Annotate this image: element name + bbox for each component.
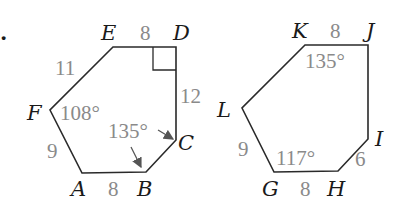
right-angle-mark [153,47,176,70]
side-label-ab: 8 [108,177,119,201]
side-label-kj: 8 [330,19,341,43]
diagram-canvas: . E D C B A F 8 12 8 9 11 108° 135° K J … [0,0,398,214]
angle-arrow-b [131,147,141,167]
vertex-label-f: F [26,101,43,125]
angle-label-g: 117° [276,146,315,170]
side-label-hi: 6 [355,147,366,171]
side-label-gh: 8 [300,177,311,201]
side-label-ed: 8 [140,21,151,45]
geometry-figure: . E D C B A F 8 12 8 9 11 108° 135° K J … [0,0,398,214]
side-label-fa: 9 [47,139,58,163]
vertex-label-i: I [374,127,384,151]
angle-label-bc: 135° [108,119,148,143]
polygon-abcdef: E D C B A F 8 12 8 9 11 108° 135° [26,21,201,201]
side-label-lg: 9 [238,137,249,161]
angle-label-k: 135° [305,49,345,73]
side-label-dc: 12 [180,84,201,108]
vertex-label-l: L [216,98,231,122]
vertex-label-c: C [178,131,194,155]
vertex-label-a: A [69,177,86,201]
vertex-label-g: G [262,177,279,201]
vertex-label-e: E [100,21,116,45]
vertex-label-d: D [172,21,190,45]
vertex-label-h: H [326,177,346,201]
angle-arrow-c [158,130,173,139]
side-label-ef: 11 [55,56,75,80]
vertex-label-k: K [291,19,309,43]
vertex-label-j: J [362,19,376,43]
angle-label-f: 108° [60,101,100,125]
polygon-ghijkl: K J I H G L 8 8 6 9 135° 117° [216,19,384,201]
vertex-label-b: B [136,177,152,201]
bullet-marker: . [0,20,7,45]
